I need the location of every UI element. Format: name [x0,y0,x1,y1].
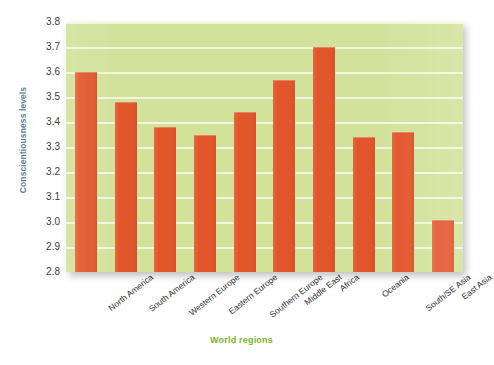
y-axis-tick-label: 3.1 [28,192,60,202]
bars-layer [66,22,463,272]
y-axis-title: Conscientiousness levels [18,45,28,235]
bar[interactable] [154,127,176,272]
y-axis-tick-label: 3.3 [28,142,60,152]
bar-slot [145,22,185,272]
bar[interactable] [392,132,414,272]
y-axis-tick-label: 3.7 [28,42,60,52]
bar[interactable] [115,102,137,272]
x-axis-tick-label: Oceania [379,272,410,299]
bar[interactable] [313,47,335,272]
bar-slot [384,22,424,272]
y-axis-tick-label: 3.8 [28,17,60,27]
bar[interactable] [353,137,375,272]
y-axis-tick-labels: 3.83.73.63.53.43.33.23.13.02.92.8 [28,22,60,272]
bar-slot [106,22,146,272]
y-axis-tick-label: 3.5 [28,92,60,102]
bar[interactable] [75,72,97,272]
x-axis-tick-label: Africa [338,272,361,293]
bar-slot [265,22,305,272]
bar[interactable] [432,220,454,273]
y-axis-tick-label: 2.9 [28,242,60,252]
y-axis-tick-label: 3.6 [28,67,60,77]
bar-slot [344,22,384,272]
y-axis-tick-label: 3.0 [28,217,60,227]
y-axis-tick-label: 3.2 [28,167,60,177]
bar[interactable] [273,80,295,273]
bar-slot [185,22,225,272]
bar[interactable] [194,135,216,273]
x-axis-tick-labels: North AmericaSouth AmericaWestern Europe… [0,272,483,334]
bar-slot [423,22,463,272]
y-axis-tick-label: 3.4 [28,117,60,127]
x-axis-title: World regions [0,335,483,345]
bar-slot [66,22,106,272]
bar[interactable] [234,112,256,272]
bar-slot [304,22,344,272]
plot-area [66,22,463,272]
bar-slot [225,22,265,272]
